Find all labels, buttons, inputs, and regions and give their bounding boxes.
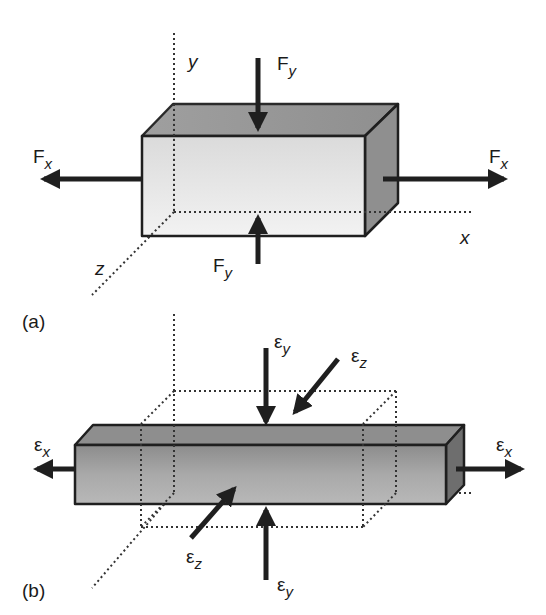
panel-a-label: (a): [22, 311, 45, 332]
panel-b: εy εz εx εx εz εy (b): [22, 314, 521, 601]
bar: [75, 425, 464, 504]
panel-b-label: (b): [22, 580, 45, 601]
block: [142, 104, 398, 236]
ey-bottom-label: εy: [277, 574, 294, 600]
ex-right-label: εx: [496, 434, 512, 460]
fx-right-label: Fx: [489, 146, 509, 172]
axis-y-label: y: [186, 51, 199, 72]
fy-bottom-label: Fy: [213, 255, 234, 281]
panel-a: y x z Fy Fx Fx Fy (a): [22, 33, 509, 332]
axis-x-label: x: [459, 227, 471, 248]
bar-front-face: [75, 445, 446, 504]
axis-z-label: z: [94, 258, 105, 279]
ey-top-label: εy: [274, 331, 291, 357]
ez-top-arrow: [295, 359, 338, 412]
stress-strain-diagram: y x z Fy Fx Fx Fy (a): [0, 0, 546, 615]
fx-left-label: Fx: [33, 146, 53, 172]
ez-bottom-label: εz: [186, 546, 202, 572]
block-front-face: [142, 136, 365, 236]
ex-left-label: εx: [34, 434, 50, 460]
fy-top-label: Fy: [277, 53, 298, 79]
block-top-face: [142, 104, 398, 136]
bar-top-face: [75, 425, 464, 445]
ez-top-label: εz: [351, 345, 367, 371]
